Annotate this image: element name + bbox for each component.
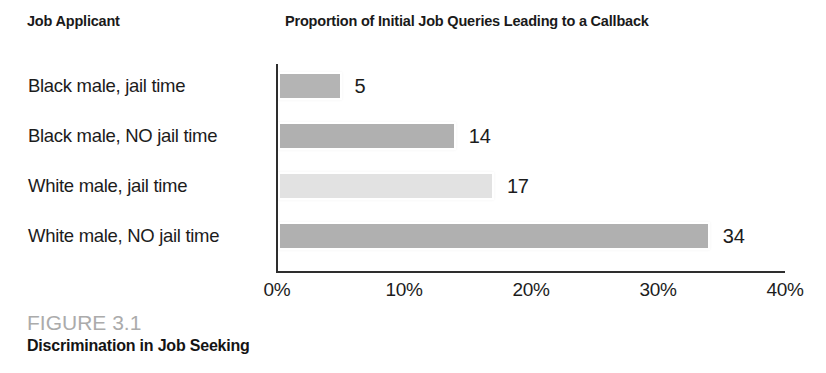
bar-value-label: 5 (355, 75, 366, 98)
x-axis-tick-label: 10% (385, 279, 422, 301)
figure-container: Job Applicant Proportion of Initial Job … (0, 0, 826, 373)
x-axis-line (276, 271, 785, 273)
figure-caption: FIGURE 3.1 Discrimination in Job Seeking (27, 312, 250, 356)
x-axis-tick-label: 20% (512, 279, 549, 301)
category-label: Black male, jail time (28, 75, 185, 97)
chart-plot-area: 5141734 Black male, jail timeBlack male,… (0, 0, 826, 310)
x-axis-tick-label: 30% (639, 279, 676, 301)
bar[interactable] (278, 172, 494, 200)
bar-row: 34 (278, 222, 780, 250)
bar[interactable] (278, 222, 710, 250)
figure-title-label: Discrimination in Job Seeking (27, 336, 250, 356)
bar-value-label: 17 (507, 175, 529, 198)
category-label: White male, jail time (28, 175, 187, 197)
figure-number-label: FIGURE 3.1 (27, 312, 250, 334)
bar-value-label: 14 (469, 125, 491, 148)
x-axis-tick-label: 0% (264, 279, 291, 301)
category-label: Black male, NO jail time (28, 125, 217, 147)
bar-row: 5 (278, 72, 412, 100)
bar[interactable] (278, 122, 456, 150)
bar-row: 14 (278, 122, 526, 150)
bar[interactable] (278, 72, 342, 100)
category-label: White male, NO jail time (28, 225, 219, 247)
bar-value-label: 34 (723, 225, 745, 248)
bar-row: 17 (278, 172, 564, 200)
x-axis-tick-label: 40% (766, 279, 803, 301)
